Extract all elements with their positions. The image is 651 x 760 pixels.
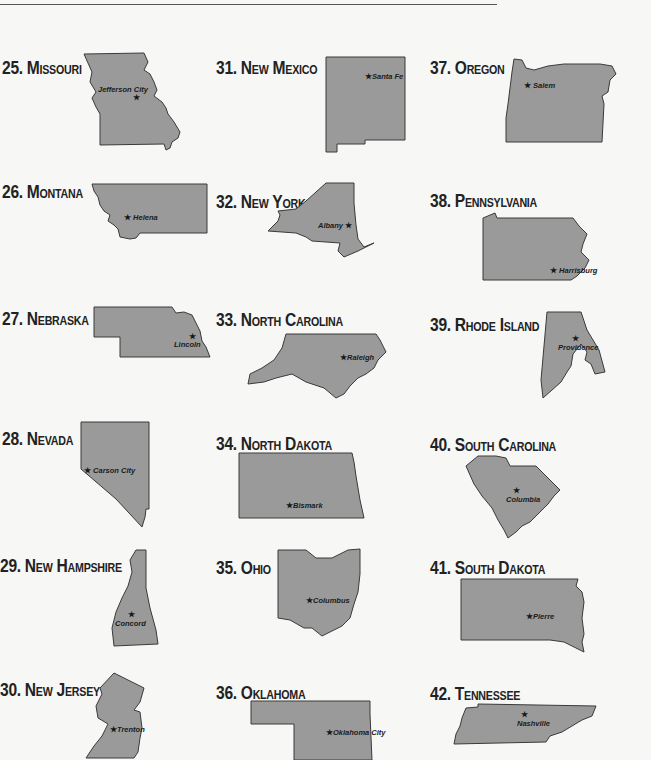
capital-label-south-dakota: ★Pierre [526,613,554,621]
capital-label-new-hampshire: Concord [115,620,146,628]
state-number: 32. [216,191,237,212]
capital-star-icon: ★ [365,72,372,81]
state-label-ohio: 35. Ohio [216,557,271,579]
state-number: 27. [2,308,23,329]
new-mexico-map [325,56,407,156]
rhode-island-map [539,310,613,400]
capital-star-icon: ★ [340,353,347,362]
south-dakota-map [460,578,588,656]
capital-label-north-dakota: ★Bismark [286,502,323,510]
capital-star-icon: ★ [124,213,131,222]
capital-label-new-york: Albany ★ [318,222,352,230]
capital-name: Raleigh [347,353,374,362]
state-number: 26. [2,181,23,202]
state-number: 35. [216,557,237,578]
state-number: 41. [430,557,451,578]
state-number: 34. [216,433,237,454]
ohio-map [276,548,364,640]
state-label-nevada: 28. Nevada [2,428,73,450]
state-name: Montana [27,181,83,202]
capital-star-icon: ★ [286,501,293,510]
state-number: 42. [430,683,451,704]
state-number: 38. [430,190,451,211]
state-label-north-carolina: 33. North Carolina [216,309,343,331]
capital-star-icon: ★ [526,612,533,621]
nevada-map [80,421,152,531]
capital-name: Columbia [506,495,540,504]
state-name: Ohio [241,557,271,578]
capital-star-icon: ★ [513,487,520,495]
state-name: Nevada [27,428,73,449]
oregon-map [504,58,630,144]
missouri-map [82,52,187,152]
state-label-pennsylvania: 38. Pennsylvania [430,190,537,212]
capital-name: Santa Fe [372,72,403,81]
capital-name: Trenton [117,725,145,734]
state-name: Rhode Island [455,314,539,335]
state-name: Missouri [27,57,82,78]
capital-star-icon: ★ [524,81,531,90]
state-label-montana: 26. Montana [2,181,83,203]
capital-label-missouri: Jefferson City [98,86,148,94]
capital-name: Bismark [293,501,323,510]
capital-name: Jefferson City [98,85,148,94]
capital-label-rhode-island: Providence [558,344,598,352]
state-label-south-dakota: 41. South Dakota [430,557,545,579]
capital-name: Providence [558,343,598,352]
state-label-rhode-island: 39. Rhode Island [430,314,539,336]
capital-label-new-jersey: ★Trenton [110,726,145,734]
capital-star-icon: ★ [521,711,528,719]
state-name: South Dakota [455,557,545,578]
state-number: 30. [0,679,21,700]
capital-name: Concord [115,619,146,628]
capital-star-icon: ★ [84,466,91,475]
state-label-missouri: 25. Missouri [2,57,82,79]
state-name: Tennessee [455,683,520,704]
state-number: 25. [2,57,23,78]
state-number: 31. [216,57,237,78]
capital-star-icon: ★ [550,266,557,275]
capital-name: Pierre [533,612,554,621]
state-number: 39. [430,314,451,335]
state-number: 33. [216,309,237,330]
state-name: South Carolina [455,434,556,455]
state-number: 36. [216,682,237,703]
capital-star-icon: ★ [572,335,579,343]
state-name: New Mexico [241,57,317,78]
capital-label-tennessee: Nashville [517,720,550,728]
capital-star-icon: ★ [189,333,196,341]
state-label-oregon: 37. Oregon [430,57,505,79]
capital-star-icon: ★ [110,725,117,734]
capital-label-oklahoma: ★Oklahoma City [326,729,386,737]
capital-star-icon: ★ [345,221,352,230]
state-label-south-carolina: 40. South Carolina [430,434,556,456]
top-rule [0,4,497,5]
state-number: 37. [430,57,451,78]
state-number: 29. [0,555,21,576]
capital-name: Oklahoma City [333,728,386,737]
capital-name: Harrisburg [559,266,597,275]
state-name: North Carolina [241,309,343,330]
new-jersey-map [84,672,149,758]
capital-name: Carson City [93,466,135,475]
state-label-new-mexico: 31. New Mexico [216,57,317,79]
capital-label-south-carolina: Columbia [506,496,540,504]
capital-star-icon: ★ [306,596,313,605]
capital-label-montana: ★ Helena [124,214,158,222]
state-number: 40. [430,434,451,455]
capital-star-icon: ★ [133,94,140,102]
capital-label-nevada: ★ Carson City [84,467,135,475]
capital-label-oregon: ★ Salem [524,82,555,90]
capital-name: Nashville [517,719,550,728]
capital-name: Albany [318,221,343,230]
north-carolina-map [246,332,386,402]
capital-star-icon: ★ [326,728,333,737]
capital-label-north-carolina: ★Raleigh [340,354,374,362]
capital-name: Salem [533,81,555,90]
state-name: North Dakota [241,433,332,454]
state-label-nebraska: 27. Nebraska [2,308,89,330]
state-number: 28. [2,428,23,449]
capital-name: Columbus [313,596,350,605]
capital-star-icon: ★ [128,611,135,619]
capital-label-pennsylvania: ★ Harrisburg [550,267,597,275]
